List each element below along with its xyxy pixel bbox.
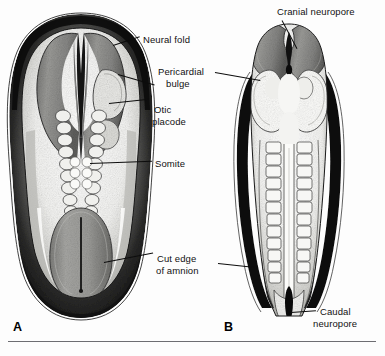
label-cut-edge-line1: Cut edge [157, 253, 196, 264]
embryo-b-illustration [222, 14, 357, 326]
label-pericardial-bulge-line2: bulge [166, 78, 190, 89]
panel-letter-b: B [224, 320, 233, 334]
label-pericardial-bulge-line1: Pericardial [158, 66, 204, 77]
label-caudal-line1: Caudal [320, 306, 351, 317]
label-somite: Somite [155, 158, 185, 169]
embryo-a-illustration [4, 12, 164, 324]
panel-letter-a: A [13, 320, 22, 334]
figure-panel-container: Neural fold Pericardial bulge Otic placo… [0, 0, 385, 356]
figure-bottom-rule [8, 341, 376, 342]
label-cut-edge-line2: of amnion [156, 265, 199, 276]
label-caudal-line2: neuropore [313, 318, 357, 329]
label-cranial-neuropore: Cranial neuropore [277, 6, 355, 17]
label-otic-placode-line2: placode [152, 116, 186, 127]
label-otic-placode-line1: Otic [154, 104, 171, 115]
label-neural-fold: Neural fold [143, 34, 190, 45]
